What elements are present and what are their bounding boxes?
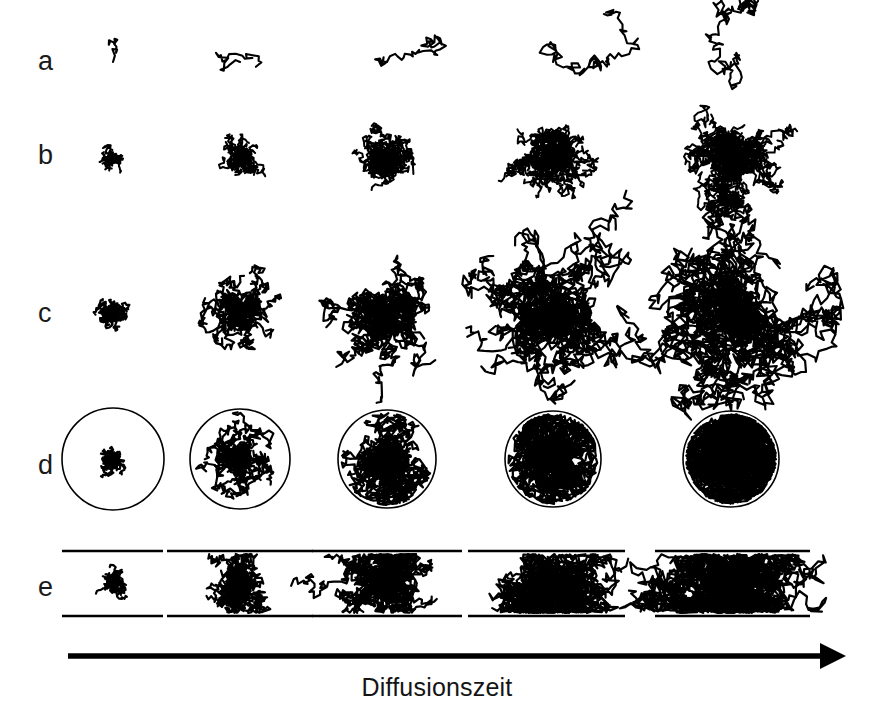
axis-caption-diffusionszeit: Diffusionszeit [0,673,874,702]
panel-d-4 [505,411,601,507]
diffusion-figure: a b c d e Diffusionszeit [0,0,874,719]
row-label-e: e [38,574,53,601]
panel-d-5 [683,411,779,507]
row-label-b: b [38,142,53,169]
figure-canvas [0,0,874,719]
row-label-a: a [38,48,53,75]
row-label-d: d [38,452,53,479]
row-label-c: c [38,300,52,327]
